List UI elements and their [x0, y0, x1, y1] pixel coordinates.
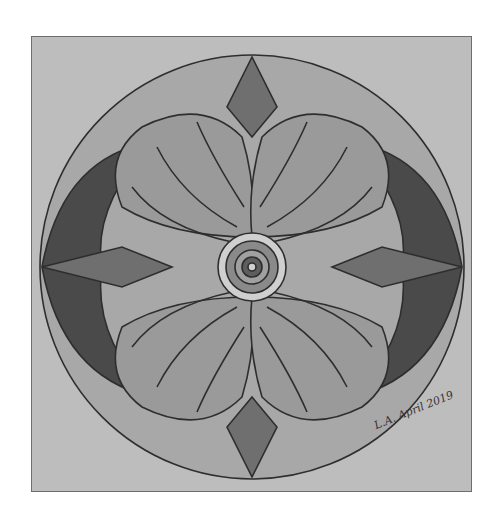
mandala-drawing	[32, 37, 473, 493]
artwork-paper: L.A. April 2019	[31, 36, 472, 492]
